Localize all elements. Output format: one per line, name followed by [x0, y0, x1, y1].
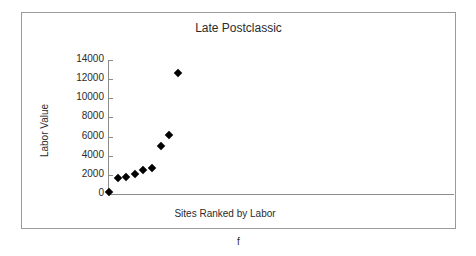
x-axis-line [108, 194, 454, 195]
data-point [156, 142, 164, 150]
figure-caption: f [21, 236, 456, 247]
y-axis-tick-label: 4000 [56, 149, 104, 160]
chart-title: Late Postclassic [21, 21, 456, 35]
y-axis-tick-label: 2000 [56, 168, 104, 179]
y-axis-tick-label: 14000 [56, 53, 104, 64]
data-point [165, 131, 173, 139]
data-point [148, 163, 156, 171]
data-point [174, 69, 182, 77]
x-axis-label: Sites Ranked by Labor [100, 208, 350, 219]
y-axis-tick-label: 10000 [56, 91, 104, 102]
data-point [131, 170, 139, 178]
data-point [139, 165, 147, 173]
y-axis-label: Labor Value [39, 91, 50, 171]
y-axis-tick-label: 6000 [56, 130, 104, 141]
figure-container: Late Postclassic Labor Value Sites Ranke… [0, 0, 476, 256]
y-axis-tick-label: 12000 [56, 72, 104, 83]
plot-area [109, 60, 453, 194]
data-point [122, 173, 130, 181]
y-axis-tick-label: 8000 [56, 110, 104, 121]
data-point [113, 173, 121, 181]
y-axis-tick-label: 0 [56, 187, 104, 198]
